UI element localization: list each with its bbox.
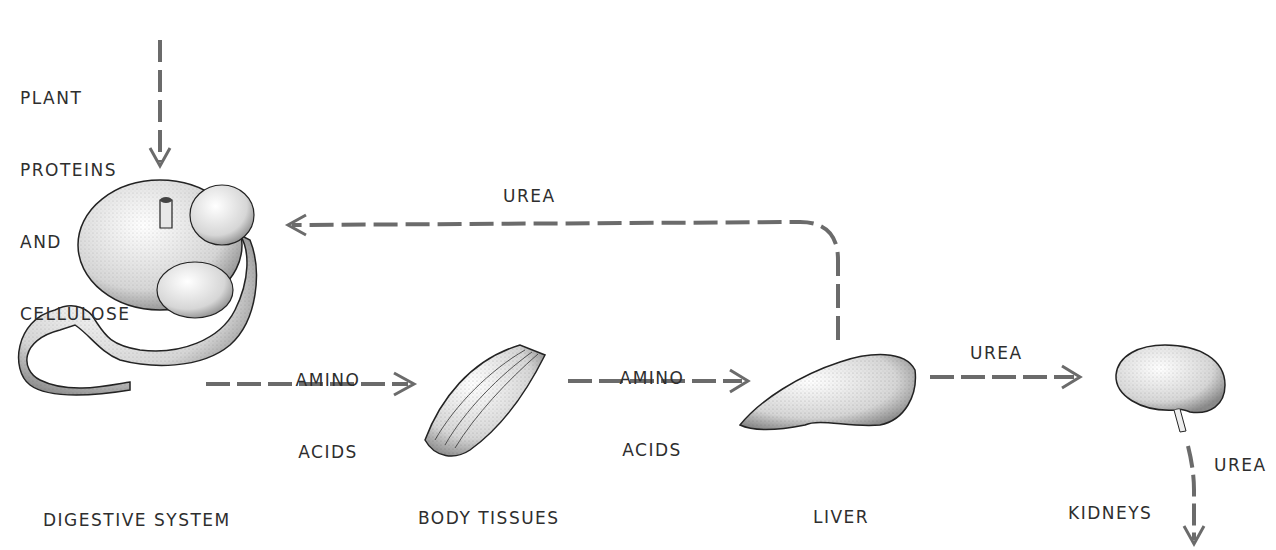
digestive-system-label: DIGESTIVE SYSTEM	[43, 508, 231, 532]
input-label-line: AND	[20, 230, 130, 254]
urea-out-label: UREA	[1214, 453, 1267, 477]
urea-recycle-label: UREA	[503, 184, 556, 208]
amino-label-line: AMINO	[607, 366, 697, 390]
amino-label-line: AMINO	[283, 368, 373, 392]
kidney-illustration	[1116, 345, 1225, 432]
input-label: PLANT PROTEINS AND CELLULOSE	[20, 38, 130, 350]
amino-acids-label-1: AMINO ACIDS	[283, 320, 373, 488]
kidneys-label: KIDNEYS	[1068, 501, 1152, 525]
body-tissues-illustration	[425, 345, 545, 456]
urea-to-kidney-label: UREA	[970, 341, 1023, 365]
input-arrow	[150, 40, 170, 166]
urea-to-kidney-arrow	[930, 366, 1080, 388]
liver-illustration	[740, 355, 915, 430]
amino-acids-label-2: AMINO ACIDS	[607, 318, 697, 486]
amino-label-line: ACIDS	[607, 438, 697, 462]
body-tissues-label: BODY TISSUES	[418, 506, 560, 530]
liver-label: LIVER	[813, 505, 869, 529]
input-label-line: PLANT	[20, 86, 130, 110]
amino-label-line: ACIDS	[283, 440, 373, 464]
urea-out-arrow	[1184, 446, 1204, 544]
input-label-line: PROTEINS	[20, 158, 130, 182]
input-label-line: CELLULOSE	[20, 302, 130, 326]
